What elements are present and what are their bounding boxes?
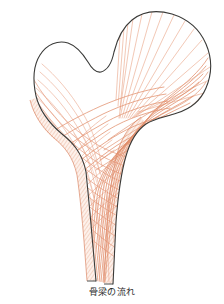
principal-compressive-group [46,58,208,292]
femur-diagram [0,0,224,304]
figure-root: 骨梁の流れ [0,0,224,304]
figure-caption: 骨梁の流れ [0,286,224,298]
